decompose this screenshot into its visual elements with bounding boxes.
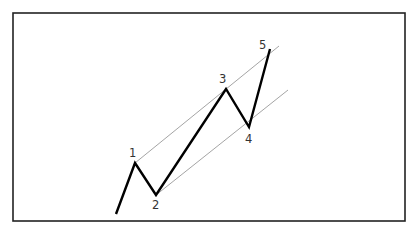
- wave-label-2: 2: [152, 198, 159, 212]
- wave-label-3: 3: [219, 72, 226, 86]
- wave-label-4: 4: [245, 132, 252, 146]
- upper-channel-line: [135, 46, 279, 163]
- wave-label-5: 5: [259, 38, 266, 52]
- elliott-wave-diagram: 1 2 3 4 5: [0, 0, 418, 235]
- wave-label-1: 1: [129, 146, 136, 160]
- lower-channel-line: [156, 90, 288, 195]
- diagram-frame: [13, 13, 405, 221]
